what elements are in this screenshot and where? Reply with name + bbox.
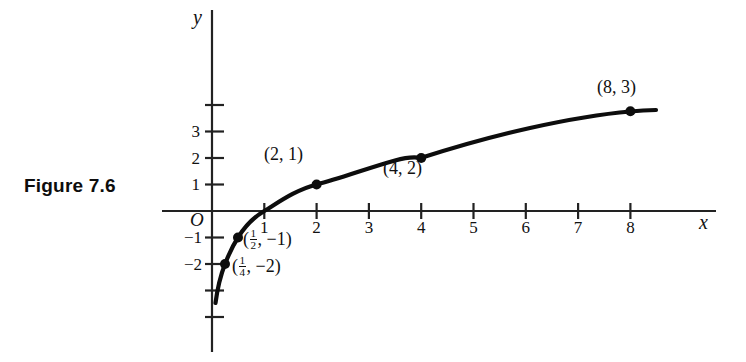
point-label-quarter-open-paren: ( (232, 256, 238, 276)
x-tick-label-8: 8 (626, 218, 635, 238)
y-tick-label-neg2: −2 (184, 255, 202, 275)
data-point-half-neg1 (233, 233, 243, 243)
fraction-one-quarter-numerator: 1 (239, 255, 247, 266)
point-label-quarter-remainder: , −2) (247, 256, 281, 276)
y-tick-label-1: 1 (192, 175, 201, 195)
x-tick-label-6: 6 (522, 218, 531, 238)
log-curve (216, 110, 657, 303)
figure-container: Figure 7.6 (0, 0, 746, 362)
fraction-one-half: 12 (250, 228, 258, 252)
data-point-2-1 (312, 180, 322, 190)
point-label-half-neg1: (12, −1) (243, 228, 292, 252)
data-point-8-3 (625, 106, 635, 116)
x-axis-label: x (699, 211, 708, 234)
point-label-half-remainder: , −1) (258, 229, 292, 249)
x-tick-label-7: 7 (574, 218, 583, 238)
y-axis-label: y (193, 6, 202, 29)
fraction-one-quarter-denominator: 4 (239, 266, 247, 278)
data-point-quarter-neg2 (220, 259, 230, 269)
log-curve-plot (0, 0, 746, 362)
fraction-one-quarter: 14 (239, 255, 247, 279)
y-tick-label-2: 2 (192, 149, 201, 169)
point-label-2-1: (2, 1) (264, 144, 303, 165)
point-label-half-open-paren: ( (243, 229, 249, 249)
point-label-4-2: (4, 2) (383, 158, 422, 179)
x-tick-label-4: 4 (417, 218, 426, 238)
point-label-8-3: (8, 3) (597, 77, 636, 98)
fraction-one-half-denominator: 2 (250, 239, 258, 251)
fraction-one-half-numerator: 1 (250, 228, 258, 239)
x-tick-label-2: 2 (312, 218, 321, 238)
y-tick-label-3: 3 (192, 122, 201, 142)
x-tick-label-5: 5 (469, 218, 478, 238)
point-label-quarter-neg2: (14, −2) (232, 255, 281, 279)
x-tick-label-3: 3 (365, 218, 374, 238)
y-tick-label-neg1: −1 (184, 228, 202, 248)
